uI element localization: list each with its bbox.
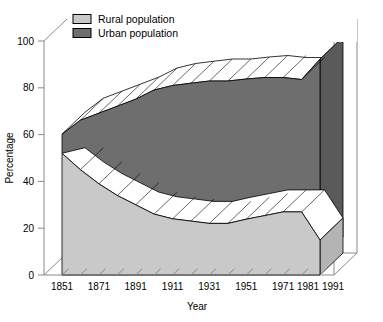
y-axis: 100 80 60 40 20 0 Percentage	[4, 36, 44, 281]
x-tick-label-1971: 1971	[272, 281, 295, 292]
legend-label-rural: Rural population	[98, 13, 175, 25]
legend-swatch-rural	[73, 15, 91, 24]
plot-areas	[62, 37, 343, 275]
y-tick-label-100: 100	[17, 36, 34, 47]
y-tick-label-60: 60	[23, 129, 35, 140]
x-tick-label-1891: 1891	[125, 281, 148, 292]
x-tick-label-1911: 1911	[162, 281, 184, 292]
legend-swatch-urban	[73, 29, 91, 38]
chart-legend: Rural population Urban population	[67, 10, 357, 42]
legend-item-rural[interactable]: Rural population	[73, 13, 175, 25]
legend-item-urban[interactable]: Urban population	[73, 27, 178, 39]
area-chart: 100 80 60 40 20 0 Percentage	[0, 0, 383, 322]
x-tick-label-1851: 1851	[51, 281, 74, 292]
x-tick-label-1871: 1871	[88, 281, 111, 292]
y-tick-label-20: 20	[23, 223, 35, 234]
y-tick-label-0: 0	[28, 270, 34, 281]
y-axis-title: Percentage	[4, 132, 15, 184]
x-axis-title: Year	[187, 301, 208, 312]
y-tick-group	[38, 41, 44, 275]
x-tick-label-1991: 1991	[322, 281, 345, 292]
chart-container: 100 80 60 40 20 0 Percentage	[0, 0, 383, 322]
y-tick-label-40: 40	[23, 176, 35, 187]
x-tick-label-1951: 1951	[235, 281, 258, 292]
legend-label-urban: Urban population	[98, 27, 178, 39]
y-tick-label-80: 80	[23, 82, 35, 93]
x-tick-label-1981: 1981	[297, 281, 320, 292]
x-tick-label-1931: 1931	[198, 281, 221, 292]
